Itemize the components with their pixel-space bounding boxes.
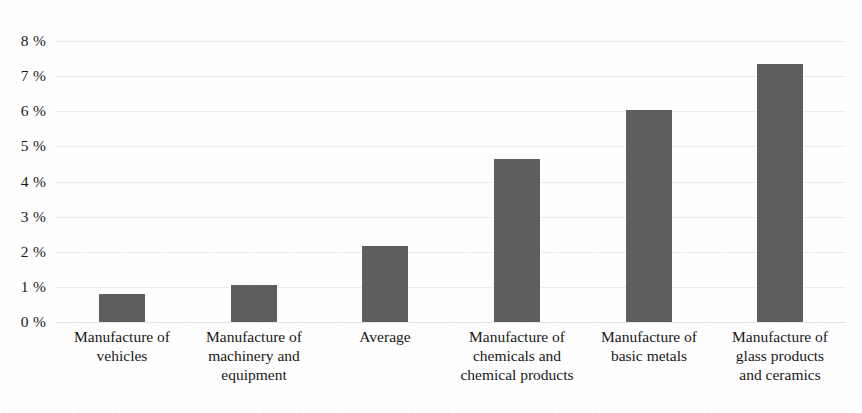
x-tick-label: Manufacture ofmachinery andequipment bbox=[180, 327, 328, 384]
y-tick-label: 5 % bbox=[21, 139, 46, 155]
y-tick-label: 4 % bbox=[21, 174, 46, 190]
y-tick-label: 7 % bbox=[21, 68, 46, 84]
x-tick-label-line: Average bbox=[311, 327, 459, 346]
gridline bbox=[56, 182, 846, 183]
y-tick-label: 0 % bbox=[21, 314, 46, 330]
gridline bbox=[56, 111, 846, 112]
gridline bbox=[56, 252, 846, 253]
x-tick-label-line: glass products bbox=[706, 346, 854, 365]
x-tick-label-line: basic metals bbox=[575, 346, 723, 365]
x-tick-label-line: Manufacture of bbox=[443, 327, 591, 346]
x-tick-label: Manufacture ofchemicals andchemical prod… bbox=[443, 327, 591, 384]
gridline bbox=[56, 41, 846, 42]
bar bbox=[231, 285, 277, 322]
gridline bbox=[56, 76, 846, 77]
plot-area bbox=[56, 41, 846, 322]
x-tick-label: Manufacture ofvehicles bbox=[48, 327, 196, 365]
x-tick-label-line: chemicals and bbox=[443, 346, 591, 365]
x-tick-label: Manufacture ofbasic metals bbox=[575, 327, 723, 365]
bar-chart-figure: 8 %7 %6 %5 %4 %3 %2 %1 %0 % Manufacture … bbox=[0, 0, 862, 413]
x-tick-label-line: vehicles bbox=[48, 346, 196, 365]
x-tick-label-line: and ceramics bbox=[706, 365, 854, 384]
x-tick-label-line: chemical products bbox=[443, 365, 591, 384]
bar bbox=[494, 159, 540, 322]
y-tick-label: 3 % bbox=[21, 209, 46, 225]
x-tick-label: Average bbox=[311, 327, 459, 346]
y-tick-label: 6 % bbox=[21, 104, 46, 120]
y-axis: 8 %7 %6 %5 %4 %3 %2 %1 %0 % bbox=[0, 41, 46, 322]
x-tick-label-line: Manufacture of bbox=[706, 327, 854, 346]
gridline bbox=[56, 287, 846, 288]
y-tick-label: 2 % bbox=[21, 244, 46, 260]
y-tick-label: 1 % bbox=[21, 279, 46, 295]
y-tick-label: 8 % bbox=[21, 33, 46, 49]
x-tick-label: Manufacture ofglass productsand ceramics bbox=[706, 327, 854, 384]
axis-baseline bbox=[56, 322, 846, 323]
bar bbox=[757, 64, 803, 322]
gridline bbox=[56, 217, 846, 218]
bar bbox=[626, 110, 672, 323]
x-tick-label-line: Manufacture of bbox=[48, 327, 196, 346]
x-tick-label-line: machinery and bbox=[180, 346, 328, 365]
gridline bbox=[56, 146, 846, 147]
x-tick-label-line: equipment bbox=[180, 365, 328, 384]
bar bbox=[362, 246, 408, 322]
bar bbox=[99, 294, 145, 322]
x-tick-label-line: Manufacture of bbox=[575, 327, 723, 346]
x-axis: Manufacture ofvehiclesManufacture ofmach… bbox=[56, 327, 846, 413]
x-tick-label-line: Manufacture of bbox=[180, 327, 328, 346]
